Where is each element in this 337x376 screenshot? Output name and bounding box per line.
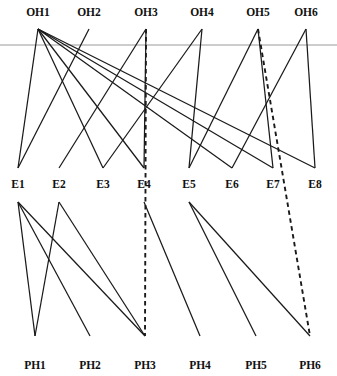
edge-oh4-to-e5: [189, 29, 202, 168]
node-label-oh2[interactable]: OH2: [77, 6, 101, 18]
edge-oh1-to-e6: [38, 29, 232, 168]
node-label-ph3[interactable]: PH3: [134, 359, 156, 371]
node-label-e2[interactable]: E2: [52, 178, 66, 190]
labels-top-layer: OH1OH2OH3OH4OH5OH6: [26, 6, 318, 18]
graph-svg: OH1OH2OH3OH4OH5OH6 E1E2E3E4E5E6E7E8 PH1P…: [0, 0, 337, 376]
edge-e4-to-ph4: [144, 202, 200, 336]
node-label-ph1[interactable]: PH1: [24, 359, 46, 371]
node-label-ph4[interactable]: PH4: [189, 359, 211, 371]
node-label-e4[interactable]: E4: [137, 178, 151, 190]
node-label-oh3[interactable]: OH3: [134, 6, 158, 18]
edges-bottom-layer: [18, 202, 310, 336]
node-label-oh6[interactable]: OH6: [294, 6, 318, 18]
node-label-ph6[interactable]: PH6: [299, 359, 321, 371]
node-label-e8[interactable]: E8: [308, 178, 322, 190]
node-label-oh1[interactable]: OH1: [26, 6, 50, 18]
node-label-e7[interactable]: E7: [266, 178, 280, 190]
edge-oh6-to-e8: [306, 29, 315, 168]
edge-oh4-to-e3: [103, 29, 202, 168]
labels-middle-layer: E1E2E3E4E5E6E7E8: [11, 178, 322, 190]
edge-oh1-to-e3: [38, 29, 103, 168]
edge-e2-to-ph3: [59, 202, 145, 336]
edge-oh1-to-e7: [38, 29, 273, 168]
node-label-oh5[interactable]: OH5: [246, 6, 270, 18]
edge-oh5-to-e7: [258, 29, 273, 168]
edge-e1-to-ph2: [18, 202, 90, 336]
labels-bottom-layer: PH1PH2PH3PH4PH5PH6: [24, 359, 321, 371]
edge-e1-to-ph1: [18, 202, 35, 336]
edge-e1-to-ph3: [18, 202, 145, 336]
node-label-e3[interactable]: E3: [96, 178, 110, 190]
diagram-canvas: OH1OH2OH3OH4OH5OH6 E1E2E3E4E5E6E7E8 PH1P…: [0, 0, 337, 376]
node-label-e5[interactable]: E5: [182, 178, 196, 190]
edge-e2-to-ph1: [35, 202, 59, 336]
node-label-e1[interactable]: E1: [11, 178, 25, 190]
node-label-e6[interactable]: E6: [225, 178, 239, 190]
node-label-ph5[interactable]: PH5: [245, 359, 267, 371]
edge-e5-to-ph6: [189, 202, 310, 336]
edge-oh6-to-e6: [232, 29, 306, 168]
node-label-oh4[interactable]: OH4: [190, 6, 214, 18]
edge-e5-to-ph5: [189, 202, 256, 336]
edge-oh5-to-e5: [189, 29, 258, 168]
edge-oh3-to-e4: [144, 29, 146, 168]
edge-oh1-to-e8: [38, 29, 315, 168]
node-label-ph2[interactable]: PH2: [79, 359, 101, 371]
